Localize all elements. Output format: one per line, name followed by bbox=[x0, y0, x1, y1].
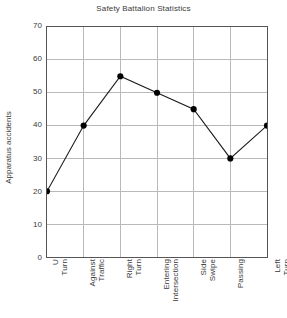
x-tick-label: Entering Intersection bbox=[163, 259, 177, 315]
line-chart: Safety Battalion Statistics Apparatus ac… bbox=[0, 0, 287, 318]
data-point bbox=[81, 122, 87, 128]
x-tick-label: Against Traffic bbox=[89, 259, 103, 315]
x-tick-label: Right Turn bbox=[126, 259, 140, 315]
data-point bbox=[154, 90, 160, 96]
y-tick-label: 50 bbox=[20, 88, 42, 96]
y-tick-label: 30 bbox=[20, 155, 42, 163]
data-point bbox=[47, 188, 50, 194]
x-tick-label: Passing bbox=[237, 259, 251, 315]
x-tick-label: Left Turn bbox=[274, 259, 287, 315]
y-axis-title: Apparatus accidents bbox=[1, 92, 15, 202]
data-series bbox=[47, 27, 267, 257]
y-tick-label: 20 bbox=[20, 188, 42, 196]
x-tick-label: Side Swipe bbox=[200, 259, 214, 315]
y-tick-label: 60 bbox=[20, 55, 42, 63]
y-axis-title-text: Apparatus accidents bbox=[4, 111, 13, 184]
x-axis-tick-labels: U TurnAgainst TrafficRight TurnEntering … bbox=[0, 261, 287, 318]
chart-title: Safety Battalion Statistics bbox=[0, 4, 287, 14]
data-point bbox=[227, 155, 233, 161]
y-tick-label: 40 bbox=[20, 121, 42, 129]
x-tick-label: U Turn bbox=[52, 259, 66, 315]
y-tick-label: 70 bbox=[20, 22, 42, 30]
plot-area bbox=[46, 26, 268, 258]
data-point bbox=[117, 73, 123, 79]
y-tick-label: 10 bbox=[20, 221, 42, 229]
data-point bbox=[191, 106, 197, 112]
